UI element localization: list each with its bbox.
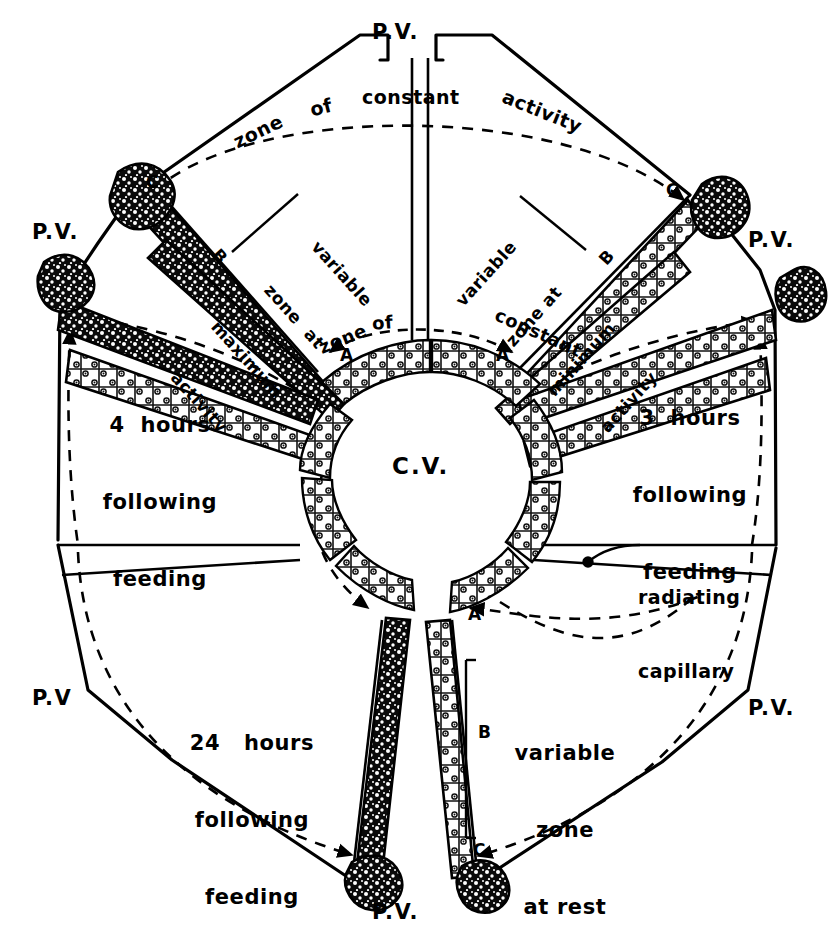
sector-label-left: 4 hours following feeding: [70, 362, 250, 618]
zone-marker-B-lower-right: B: [478, 722, 491, 743]
portal-vein-label-lower-left: P.V: [32, 686, 72, 712]
radiating-capillary-label: radiating capillary: [638, 536, 740, 709]
portal-vein-label-upper-left: P.V.: [32, 220, 79, 246]
portal-vein-label-bottom: P.V.: [372, 900, 419, 926]
portal-vein-label-lower-right: P.V.: [748, 696, 795, 722]
figure-canvas: P.V. P.V. P.V. P.V P.V. P.V. C.V. zone o…: [0, 0, 832, 945]
zone-marker-C-upper-left: C: [146, 172, 159, 193]
zone-marker-C-lower-right: C: [473, 840, 486, 861]
zone-marker-A-right: A: [496, 345, 510, 366]
central-vein-label: C.V.: [392, 452, 449, 480]
portal-vein-label-upper-right: P.V.: [748, 228, 795, 254]
zone-marker-A-lower-right: A: [468, 604, 482, 625]
sector-label-lower-left: 24 hours following feeding: [152, 680, 352, 936]
portal-vein-label-top: P.V.: [372, 20, 419, 46]
zone-marker-A-left: A: [340, 345, 354, 366]
sector-label-lower-right: variable zone at rest: [490, 690, 640, 945]
zone-marker-C-upper-right: C: [666, 180, 679, 201]
